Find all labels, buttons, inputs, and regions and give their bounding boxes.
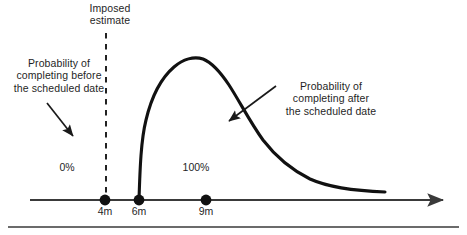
diagram-canvas: Imposed estimate Probability of completi… xyxy=(0,0,467,235)
axis-dot-9m xyxy=(201,195,212,206)
before-scheduled-date-annotation: Probability of completing before the sch… xyxy=(4,57,114,94)
axis-dot-4m xyxy=(100,195,111,206)
axis-dot-6m xyxy=(134,195,145,206)
diagram-graphics xyxy=(0,0,467,235)
axis-tick-label-6m: 6m xyxy=(122,205,156,217)
axis-tick-label-4m: 4m xyxy=(88,205,122,217)
after-scheduled-date-annotation: Probability of completing after the sche… xyxy=(268,80,394,117)
probability-label-hundred: 100% xyxy=(176,161,216,173)
before-annotation-arrow xyxy=(47,103,73,136)
probability-label-zero: 0% xyxy=(50,161,84,173)
axis-tick-label-9m: 9m xyxy=(189,205,223,217)
imposed-estimate-label: Imposed estimate xyxy=(70,2,150,27)
